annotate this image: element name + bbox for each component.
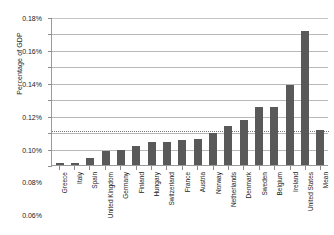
x-axis-tick-slot xyxy=(51,166,66,170)
bar-united-states xyxy=(301,31,309,165)
bar-slot xyxy=(144,18,159,165)
y-axis-tick: 0.16% xyxy=(48,34,52,35)
bar-greece xyxy=(56,163,64,165)
y-axis-title: Percentage of GDP xyxy=(16,9,23,119)
x-axis-tick xyxy=(59,166,60,170)
x-axis-tick-slot xyxy=(266,166,281,170)
x-axis-tick xyxy=(197,166,198,170)
bar-slot xyxy=(236,18,251,165)
x-axis-label-mean: Mean xyxy=(324,172,331,188)
bar-ireland xyxy=(286,85,294,165)
x-axis-tick xyxy=(182,166,183,170)
x-axis-label-slot: Germany xyxy=(113,172,128,234)
x-axis-tick xyxy=(274,166,275,170)
x-axis-tick xyxy=(305,166,306,170)
x-axis-tick-slot xyxy=(190,166,205,170)
x-axis-label-slot: Norway xyxy=(205,172,220,234)
y-axis-tick: 0.04% xyxy=(48,133,52,134)
bar-slot xyxy=(251,18,266,165)
x-axis-tick xyxy=(228,166,229,170)
bar-slot xyxy=(67,18,82,165)
x-axis-tick-slot xyxy=(251,166,266,170)
x-axis-tick-slot xyxy=(220,166,235,170)
bar-slot xyxy=(267,18,282,165)
x-axis-tick-slot xyxy=(313,166,328,170)
bar-slot xyxy=(205,18,220,165)
y-axis-tick: 0.12% xyxy=(48,67,52,68)
x-axis-tick-slot xyxy=(159,166,174,170)
bar-italy xyxy=(71,163,79,165)
x-axis-tick xyxy=(320,166,321,170)
bar-france xyxy=(178,140,186,165)
bar-norway xyxy=(209,133,217,165)
x-axis-label-slot: United States xyxy=(297,172,312,234)
x-axis-tick-slot xyxy=(82,166,97,170)
x-axis-label-slot: Mean xyxy=(313,172,328,234)
x-axis-label-slot: Finland xyxy=(128,172,143,234)
y-axis-tick-label: 0.16% xyxy=(22,47,42,54)
x-axis-tick xyxy=(213,166,214,170)
x-axis-tick-slot xyxy=(174,166,189,170)
x-axis-ticks xyxy=(51,166,328,170)
x-axis-label-slot: Ireland xyxy=(282,172,297,234)
y-axis-tick: 0.06% xyxy=(48,117,52,118)
x-axis-tick xyxy=(151,166,152,170)
x-axis-label-slot: Switzerland xyxy=(159,172,174,234)
x-axis-label-slot: Austria xyxy=(190,172,205,234)
x-axis-tick-slot xyxy=(297,166,312,170)
x-axis-tick xyxy=(74,166,75,170)
x-axis-label-slot: Belgium xyxy=(266,172,281,234)
x-axis-label-slot: Hungary xyxy=(143,172,158,234)
y-axis-tick-label: 0.12% xyxy=(22,113,42,120)
x-axis-label-slot: Greece xyxy=(51,172,66,234)
y-axis-tick: 0.18% xyxy=(48,18,52,19)
x-axis-tick-slot xyxy=(236,166,251,170)
x-axis-label-slot: Spain xyxy=(82,172,97,234)
bar-switzerland xyxy=(163,142,171,165)
bar-slot xyxy=(221,18,236,165)
x-axis-tick xyxy=(136,166,137,170)
x-axis-tick-slot xyxy=(97,166,112,170)
y-axis-tick-label: 0.18% xyxy=(22,15,42,22)
x-axis-tick-slot xyxy=(128,166,143,170)
bar-belgium xyxy=(270,107,278,165)
x-axis-tick xyxy=(290,166,291,170)
bar-slot xyxy=(175,18,190,165)
bar-sweden xyxy=(255,107,263,165)
x-axis-tick xyxy=(120,166,121,170)
bar-slot xyxy=(52,18,67,165)
bar-slot xyxy=(98,18,113,165)
x-axis-label-slot: United Kingdom xyxy=(97,172,112,234)
bar-finland xyxy=(132,146,140,165)
bar-slot xyxy=(113,18,128,165)
y-axis-tick-label: 0.06% xyxy=(22,212,42,219)
x-axis-tick-slot xyxy=(282,166,297,170)
bar-slot xyxy=(83,18,98,165)
y-axis-tick: 0.10% xyxy=(48,84,52,85)
x-axis-labels: GreeceItalySpainUnited KingdomGermanyFin… xyxy=(51,172,328,234)
bar-mean xyxy=(316,130,324,165)
bar-chart: Percentage of GDP 0.18%0.16%0.14%0.12%0.… xyxy=(0,0,334,235)
bar-slot xyxy=(297,18,312,165)
x-axis-tick xyxy=(243,166,244,170)
x-axis-tick-slot xyxy=(113,166,128,170)
bar-united-kingdom xyxy=(102,151,110,165)
y-axis-tick-label: 0.10% xyxy=(22,146,42,153)
bar-hungary xyxy=(148,142,156,165)
y-axis-tick: 0.14% xyxy=(48,51,52,52)
y-axis-tick: 0.02% xyxy=(48,150,52,151)
x-axis-label-slot: Netherlands xyxy=(220,172,235,234)
y-axis-tick: 0.08% xyxy=(48,100,52,101)
x-axis-tick-slot xyxy=(205,166,220,170)
bar-slot xyxy=(159,18,174,165)
bar-denmark xyxy=(240,120,248,165)
y-axis-tick-label: 0.08% xyxy=(22,179,42,186)
bar-series xyxy=(52,18,328,165)
x-axis-tick xyxy=(166,166,167,170)
x-axis-tick xyxy=(259,166,260,170)
bar-slot xyxy=(313,18,328,165)
x-axis-tick xyxy=(105,166,106,170)
x-axis-tick-slot xyxy=(66,166,81,170)
x-axis-label-slot: Denmark xyxy=(236,172,251,234)
x-axis-label-slot: Sweden xyxy=(251,172,266,234)
